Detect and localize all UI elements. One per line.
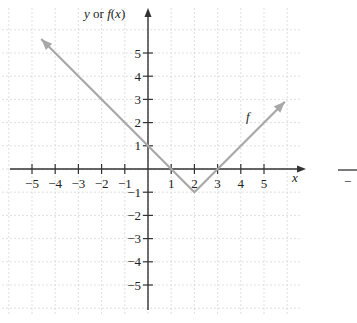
svg-text:5: 5 [135, 46, 142, 61]
svg-text:−5: −5 [127, 278, 141, 293]
svg-text:−3: −3 [71, 176, 85, 191]
svg-text:−4: −4 [48, 176, 62, 191]
svg-text:3: 3 [214, 176, 221, 191]
svg-text:5: 5 [261, 176, 268, 191]
svg-text:−2: −2 [95, 176, 109, 191]
svg-text:4: 4 [135, 69, 142, 84]
grid-lines [2, 8, 300, 315]
x-axis-label: x [291, 170, 298, 185]
svg-text:1: 1 [168, 176, 175, 191]
neighbor-tick-fragment: − [344, 174, 351, 189]
svg-text:1: 1 [135, 138, 142, 153]
svg-text:3: 3 [135, 92, 142, 107]
y-axis-label: y or f(x) [82, 6, 125, 21]
svg-text:4: 4 [238, 176, 245, 191]
svg-text:−2: −2 [127, 208, 141, 223]
svg-text:2: 2 [135, 115, 142, 130]
svg-text:−3: −3 [127, 231, 141, 246]
curve-label-f: f [246, 109, 252, 124]
graph-of-f: −5−4−3−2−112345−5−4−3−2−112345 y or f(x)… [0, 0, 357, 323]
svg-text:−1: −1 [127, 185, 141, 200]
svg-text:−5: −5 [25, 176, 39, 191]
svg-text:−4: −4 [127, 254, 141, 269]
